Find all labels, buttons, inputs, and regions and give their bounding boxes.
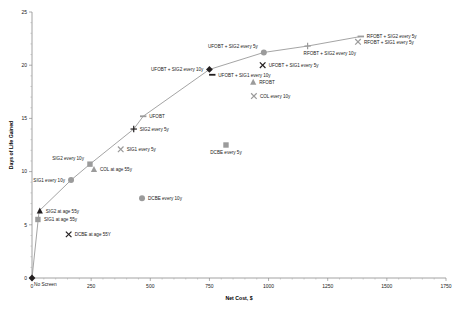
data-point bbox=[355, 39, 361, 45]
chart-container: 051015202502505007501000125015001750Net … bbox=[0, 0, 455, 323]
point-label: COL every 10y bbox=[260, 94, 291, 99]
point-label: UFOBT + SIG1 every 10y bbox=[218, 73, 271, 78]
x-tick-label: 1000 bbox=[263, 283, 274, 289]
point-label: RFOBT + SIG2 every 10y bbox=[304, 51, 357, 56]
x-tick-label: 750 bbox=[205, 283, 214, 289]
x-tick-label: 1500 bbox=[381, 283, 392, 289]
point-label: UFOBT + SIG1 every 5y bbox=[269, 63, 320, 68]
data-point bbox=[68, 177, 74, 183]
point-label: SIG2 every 5y bbox=[140, 127, 170, 132]
point-label: SIG1 every 10y bbox=[33, 178, 65, 183]
data-point bbox=[91, 166, 97, 172]
point-label: SIG1 at age 55y bbox=[44, 217, 78, 222]
data-point bbox=[251, 93, 257, 99]
x-axis-title: Net Cost, $ bbox=[225, 295, 252, 301]
x-tick-label: 250 bbox=[87, 283, 96, 289]
data-point bbox=[139, 195, 145, 201]
x-tick-label: 1750 bbox=[440, 283, 451, 289]
data-point bbox=[250, 79, 256, 85]
y-tick-label: 5 bbox=[24, 222, 27, 228]
point-label: RFOBT + SIG1 every 5y bbox=[364, 40, 415, 45]
point-label: UFOBT + SIG2 every 5y bbox=[208, 44, 259, 49]
y-tick-label: 0 bbox=[24, 275, 27, 281]
data-point bbox=[140, 115, 146, 117]
data-point bbox=[206, 66, 213, 73]
data-point bbox=[260, 62, 266, 68]
data-point bbox=[358, 36, 364, 38]
data-point bbox=[261, 49, 267, 55]
point-label: COL at age 55y bbox=[100, 167, 133, 172]
point-label: DCBE every 5y bbox=[210, 150, 242, 155]
scatter-plot: 051015202502505007501000125015001750Net … bbox=[0, 0, 455, 323]
data-point bbox=[29, 275, 36, 282]
y-tick-label: 10 bbox=[21, 168, 27, 174]
point-label: DCBE at age 55Y bbox=[75, 232, 111, 237]
y-tick-label: 25 bbox=[21, 9, 27, 15]
data-point bbox=[209, 74, 215, 76]
point-label: UFOBT bbox=[149, 114, 165, 119]
data-point bbox=[66, 232, 72, 238]
point-label: SIG2 every 10y bbox=[52, 156, 84, 161]
y-tick-label: 20 bbox=[21, 62, 27, 68]
point-label: UFOBT + SIG2 every 10y bbox=[151, 67, 204, 72]
point-label: SIG2 at age 55y bbox=[46, 209, 80, 214]
point-label: No Screen bbox=[34, 282, 57, 287]
y-tick-label: 15 bbox=[21, 115, 27, 121]
x-tick-label: 1250 bbox=[322, 283, 333, 289]
point-label: RFOBT bbox=[259, 80, 275, 85]
point-label: SIG1 every 5y bbox=[127, 147, 157, 152]
y-axis-title: Days of Life Gained bbox=[8, 121, 14, 169]
data-point bbox=[304, 43, 310, 49]
data-point bbox=[118, 146, 124, 152]
x-tick-label: 500 bbox=[146, 283, 155, 289]
data-point bbox=[35, 217, 40, 222]
data-point bbox=[87, 161, 92, 166]
data-point bbox=[223, 142, 228, 147]
point-label: RFOBT + SIG2 every 5y bbox=[367, 34, 418, 39]
point-label: DCBE every 10y bbox=[148, 196, 183, 201]
